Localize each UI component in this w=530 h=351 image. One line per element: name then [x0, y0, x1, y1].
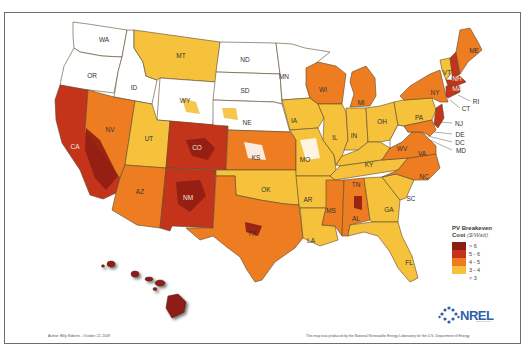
- swatch-5-6: [452, 250, 466, 258]
- nrel-url: www.nrel.gov: [476, 320, 491, 323]
- legend-item-gt6: > 6: [452, 242, 512, 250]
- svg-text:KY: KY: [365, 161, 374, 168]
- state-NY: [400, 70, 448, 102]
- svg-text:MD: MD: [456, 147, 466, 154]
- svg-text:GA: GA: [384, 206, 394, 213]
- svg-text:RI: RI: [473, 98, 480, 105]
- svg-text:IA: IA: [291, 117, 298, 124]
- svg-text:MO: MO: [300, 156, 310, 163]
- svg-text:NM: NM: [183, 194, 193, 201]
- svg-text:OH: OH: [377, 118, 387, 125]
- svg-text:WI: WI: [319, 86, 327, 93]
- svg-text:NE: NE: [242, 119, 252, 126]
- svg-text:ME: ME: [469, 47, 479, 54]
- svg-text:AL: AL: [352, 215, 360, 222]
- svg-text:PA: PA: [415, 114, 424, 121]
- legend-item-lt3: < 3: [452, 274, 512, 282]
- legend-item-5-6: 5 - 6: [452, 250, 512, 258]
- svg-text:MA: MA: [452, 85, 462, 92]
- svg-text:DC: DC: [455, 139, 465, 146]
- us-map: WA OR ID MT WY CA NV UT AZ CO NM ND SD N…: [0, 0, 530, 351]
- svg-text:SC: SC: [406, 195, 415, 202]
- nrel-dots-icon: [438, 306, 460, 324]
- legend-unit: ($/Watt): [467, 232, 488, 238]
- svg-text:OK: OK: [261, 186, 271, 193]
- svg-text:LA: LA: [307, 237, 316, 244]
- swatch-3-4: [452, 266, 466, 274]
- svg-text:AZ: AZ: [136, 188, 144, 195]
- swatch-4-5: [452, 258, 466, 266]
- svg-text:MN: MN: [279, 73, 289, 80]
- svg-text:CT: CT: [462, 105, 471, 112]
- svg-text:NY: NY: [430, 89, 440, 96]
- legend-title: PV Breakeven: [452, 225, 512, 232]
- svg-text:MI: MI: [357, 99, 364, 106]
- svg-text:WV: WV: [397, 145, 408, 152]
- swatch-gt6: [452, 242, 466, 250]
- swatch-lt3: [452, 274, 466, 282]
- svg-text:FL: FL: [405, 259, 413, 266]
- svg-text:MT: MT: [176, 52, 185, 59]
- svg-text:DE: DE: [455, 131, 465, 138]
- svg-text:NH: NH: [452, 75, 462, 82]
- producer-credit: This map was produced by the National Re…: [306, 334, 470, 338]
- svg-text:UT: UT: [145, 135, 154, 142]
- author-credit: Author: Billy Roberts - October 22, 2009: [48, 334, 110, 338]
- svg-text:MS: MS: [326, 207, 336, 214]
- svg-text:TN: TN: [352, 181, 361, 188]
- svg-text:NJ: NJ: [455, 120, 463, 127]
- svg-text:AR: AR: [303, 196, 312, 203]
- svg-text:VT: VT: [443, 69, 451, 76]
- svg-text:ND: ND: [240, 56, 250, 63]
- svg-text:IN: IN: [351, 132, 358, 139]
- state-IN: [344, 108, 368, 150]
- state-FL: [348, 222, 418, 282]
- svg-text:CO: CO: [192, 144, 202, 151]
- legend-item-3-4: 3 - 4: [452, 266, 512, 274]
- legend-item-4-5: 4 - 5: [452, 258, 512, 266]
- svg-text:SD: SD: [240, 87, 249, 94]
- state-WI: [306, 62, 346, 104]
- legend-subtitle: Cost: [452, 232, 465, 238]
- svg-text:WY: WY: [180, 97, 191, 104]
- svg-text:VA: VA: [418, 150, 427, 157]
- svg-text:ID: ID: [131, 84, 138, 91]
- svg-text:KS: KS: [252, 154, 261, 161]
- svg-text:OR: OR: [87, 72, 97, 79]
- svg-text:IL: IL: [332, 134, 338, 141]
- svg-text:CA: CA: [70, 143, 80, 150]
- svg-text:NV: NV: [105, 126, 115, 133]
- svg-text:WA: WA: [99, 36, 110, 43]
- hawaii: [102, 261, 187, 318]
- svg-text:TX: TX: [248, 230, 257, 237]
- svg-text:NC: NC: [419, 173, 429, 180]
- legend: PV Breakeven Cost ($/Watt) > 6 5 - 6 4 -…: [452, 225, 512, 282]
